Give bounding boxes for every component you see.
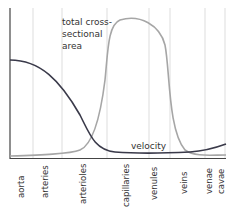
tick-aorta: aorta (16, 176, 26, 198)
area-curve (10, 18, 226, 156)
tick-capillaries: capillaries (121, 163, 131, 207)
velocity-label: velocity (131, 141, 167, 151)
velocity-curve (10, 60, 226, 153)
tick-veins: veins (179, 171, 189, 194)
blood-flow-chart: total cross- sectional area velocity aor… (0, 0, 238, 213)
tick-venules: venules (149, 166, 159, 200)
area-label-1: total cross- (62, 17, 112, 27)
area-label-3: area (62, 41, 82, 51)
tick-arterioles: arterioles (78, 163, 88, 204)
area-label-2: sectional (62, 29, 102, 39)
tick-venae: venae (204, 168, 214, 194)
tick-cavae: cavae (216, 169, 226, 194)
tick-arteries: arteries (40, 165, 50, 198)
x-tick-labels: aorta arteries arterioles capillaries ve… (16, 163, 226, 207)
